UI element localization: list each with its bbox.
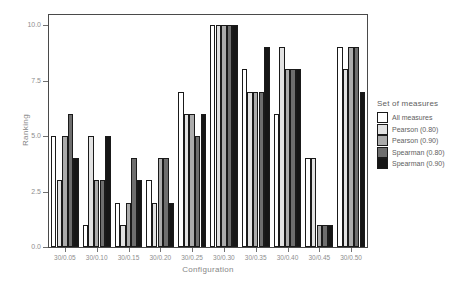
y-tick — [43, 81, 48, 82]
y-tick — [43, 25, 48, 26]
y-tick — [43, 192, 48, 193]
bar-30/0.15-s4 — [137, 180, 143, 247]
plot-panel — [48, 14, 368, 248]
legend-label: Spearman (0.80) — [392, 149, 445, 156]
legend-item-4: Spearman (0.90) — [377, 158, 445, 170]
x-tick — [256, 248, 257, 252]
x-tick — [97, 248, 98, 252]
legend-key-swatch — [377, 112, 388, 123]
y-tick-label: 5.0 — [13, 132, 41, 139]
bar-30/0.30-s4 — [232, 25, 238, 247]
legend-items: All measuresPearson (0.80)Pearson (0.90)… — [377, 112, 445, 170]
bar-30/0.25-s4 — [201, 114, 207, 247]
x-tick-label: 30/0.15 — [113, 254, 145, 261]
legend-key-swatch — [377, 158, 388, 169]
legend-key-swatch — [377, 147, 388, 158]
bar-30/0.40-s4 — [296, 69, 302, 247]
y-axis-title: Ranking — [21, 114, 30, 146]
x-tick-label: 30/0.05 — [49, 254, 81, 261]
bar-30/0.35-s4 — [264, 47, 270, 247]
legend-item-2: Pearson (0.90) — [377, 135, 445, 147]
x-tick — [288, 248, 289, 252]
x-tick — [351, 248, 352, 252]
x-tick-label: 30/0.10 — [81, 254, 113, 261]
x-tick — [129, 248, 130, 252]
y-tick-label: 7.5 — [13, 77, 41, 84]
y-tick-label: 2.5 — [13, 188, 41, 195]
x-tick-label: 30/0.20 — [144, 254, 176, 261]
x-tick-label: 30/0.25 — [176, 254, 208, 261]
x-tick-label: 30/0.30 — [208, 254, 240, 261]
legend-label: Pearson (0.80) — [392, 126, 438, 133]
bar-30/0.50-s4 — [360, 92, 366, 247]
legend-label: Pearson (0.90) — [392, 137, 438, 144]
legend-item-3: Spearman (0.80) — [377, 147, 445, 159]
x-tick — [224, 248, 225, 252]
y-tick-label: 0.0 — [13, 243, 41, 250]
bar-30/0.10-s4 — [105, 136, 111, 247]
x-tick — [192, 248, 193, 252]
x-tick-label: 30/0.40 — [272, 254, 304, 261]
y-tick-label: 10.0 — [13, 21, 41, 28]
y-tick — [43, 136, 48, 137]
legend-key-swatch — [377, 135, 388, 146]
x-tick — [65, 248, 66, 252]
x-tick — [160, 248, 161, 252]
bar-30/0.45-s4 — [328, 225, 334, 247]
figure: Ranking 0.02.55.07.510.030/0.0530/0.1030… — [0, 0, 468, 292]
x-tick-label: 30/0.45 — [303, 254, 335, 261]
legend-item-1: Pearson (0.80) — [377, 124, 445, 136]
x-tick — [319, 248, 320, 252]
legend-label: Spearman (0.90) — [392, 160, 445, 167]
x-axis-title: Configuration — [48, 265, 368, 274]
bar-30/0.05-s4 — [73, 158, 79, 247]
x-tick-label: 30/0.50 — [335, 254, 367, 261]
y-tick — [43, 247, 48, 248]
legend-title: Set of measures — [377, 99, 445, 108]
x-tick-label: 30/0.35 — [240, 254, 272, 261]
legend-item-0: All measures — [377, 112, 445, 124]
legend-key-swatch — [377, 124, 388, 135]
bar-30/0.20-s4 — [169, 203, 175, 247]
legend-label: All measures — [392, 114, 432, 121]
legend: Set of measures All measuresPearson (0.8… — [377, 99, 445, 170]
